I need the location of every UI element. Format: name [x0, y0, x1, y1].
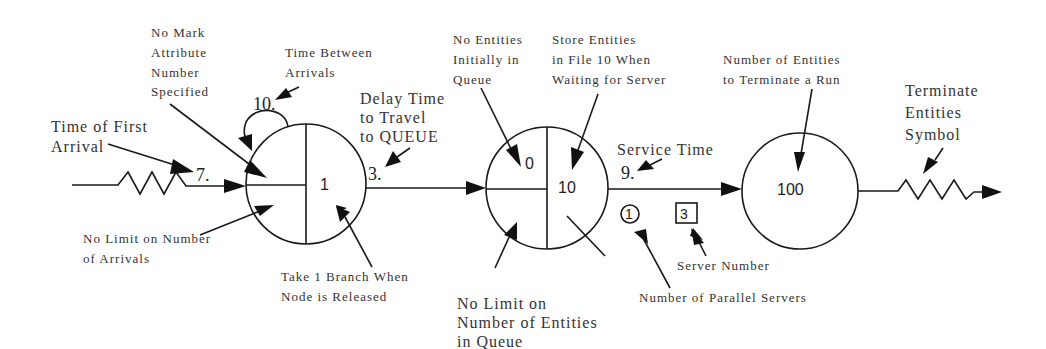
pointer-line — [345, 217, 372, 267]
label: No Mark — [151, 25, 205, 40]
create-branch-count: 1 — [320, 176, 329, 193]
label: to QUEUE — [360, 128, 439, 145]
slam-network-diagram: 1 7. 10. 3. Time of First Arrival No Mar… — [0, 0, 1046, 349]
arrival-activity — [72, 172, 246, 194]
pointer-line — [643, 238, 670, 288]
label: Waiting for Server — [552, 72, 666, 87]
pointer-line — [108, 144, 178, 166]
label: Time Between — [285, 45, 373, 60]
arrowhead-icon — [170, 159, 194, 174]
label: Arrivals — [285, 65, 336, 80]
server-number-value: 3 — [680, 206, 688, 222]
pointer-line — [935, 148, 943, 160]
label: to Terminate a Run — [723, 72, 841, 87]
arrowhead-icon — [634, 229, 648, 244]
label: No Entities — [453, 32, 523, 47]
label: Take 1 Branch When — [281, 269, 409, 284]
arrowhead-icon — [721, 182, 742, 196]
label: Terminate — [905, 82, 979, 99]
pointer-line — [200, 211, 260, 235]
annotation-delay-time: Delay Time to Travel to QUEUE — [360, 90, 445, 167]
terminate-entities-symbol — [858, 180, 1002, 199]
label: Time of First — [51, 118, 148, 135]
label: Entities — [905, 104, 962, 121]
label: in File 10 When — [552, 52, 651, 67]
label: Delay Time — [360, 90, 445, 108]
zigzag-terminate-line — [858, 180, 990, 199]
parallel-servers-indicator: 1 — [621, 205, 639, 223]
label: of Arrivals — [83, 251, 150, 266]
annotation-server-number: Server Number — [677, 228, 770, 273]
label: Number of Entities — [457, 314, 598, 331]
annotation-terminate-symbol: Terminate Entities Symbol — [905, 82, 979, 174]
label: in Queue — [457, 333, 523, 349]
time-between-arrivals-value: 10. — [253, 94, 276, 114]
terminate-node: 100 — [742, 133, 858, 249]
label: No Limit on — [457, 295, 547, 312]
parallel-servers-value: 1 — [625, 206, 633, 222]
annotation-no-entities-initially: No Entities Initially in Queue — [453, 32, 523, 167]
arrowhead-icon — [275, 88, 292, 100]
label: Attribute — [151, 45, 207, 60]
label: Store Entities — [552, 32, 636, 47]
delay-time-value: 3. — [368, 164, 382, 184]
label: Queue — [453, 72, 492, 87]
pointer-line — [170, 104, 253, 167]
label: Node is Released — [281, 289, 387, 304]
queue-initial-entities: 0 — [525, 155, 534, 172]
arrowhead-icon — [637, 160, 654, 171]
label: Number — [151, 65, 200, 80]
annotation-no-mark-attribute: No Mark Attribute Number Specified — [151, 25, 267, 178]
pointer-line — [495, 233, 511, 268]
label: Symbol — [905, 126, 961, 144]
arrowhead-icon — [224, 179, 246, 193]
annotation-no-limit-arrivals: No Limit on Number of Arrivals — [83, 205, 274, 266]
label: to Travel — [360, 109, 426, 126]
label: Initially in — [453, 52, 520, 67]
arrowhead-icon — [238, 134, 252, 151]
label: Specified — [151, 84, 209, 99]
time-of-first-arrival-value: 7. — [196, 165, 210, 185]
arrowhead-icon — [385, 151, 401, 167]
label: Arrival — [51, 138, 104, 155]
label: Number of Parallel Servers — [639, 290, 807, 305]
queue-node: 0 10 — [486, 127, 608, 256]
queue-file-number: 10 — [558, 179, 576, 196]
annotation-time-of-first-arrival: Time of First Arrival — [51, 118, 194, 174]
arrowhead-icon — [691, 228, 704, 245]
create-node: 1 — [238, 110, 366, 244]
arrowhead-icon — [466, 181, 486, 195]
server-number-indicator: 3 — [676, 203, 697, 223]
pointer-line — [397, 148, 410, 157]
label: Service Time — [617, 141, 714, 158]
service-time-value: 9. — [621, 163, 635, 183]
terminate-count: 100 — [777, 181, 804, 198]
label: Number of Entities — [723, 52, 841, 67]
label: Server Number — [677, 258, 770, 273]
pointer-line — [578, 94, 598, 150]
pointer-line — [650, 159, 662, 165]
label: No Limit on Number — [83, 231, 211, 246]
arrowhead-icon — [982, 185, 1002, 199]
annotation-time-between-arrivals: Time Between Arrivals — [275, 45, 373, 100]
pointer-line — [481, 88, 513, 153]
